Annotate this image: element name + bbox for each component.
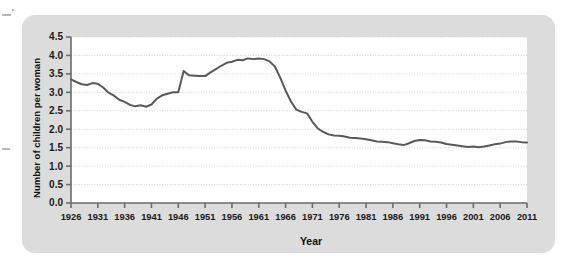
y-axis-title: Number of children per woman (31, 58, 42, 198)
y-tick-label: 1.0 (49, 161, 63, 172)
scan-speck (2, 148, 10, 150)
y-tick-label: 4.5 (49, 31, 63, 42)
y-tick-label: 0.5 (49, 179, 63, 190)
y-axis-tick-labels: 0.00.51.01.52.02.53.03.54.04.5 (49, 31, 63, 208)
x-axis-title: Year (300, 235, 322, 247)
x-tick-label: 2001 (463, 212, 484, 222)
x-tick-label: 1946 (168, 212, 189, 222)
y-tick-label: 2.5 (49, 105, 63, 116)
x-tick-label: 1931 (87, 212, 108, 222)
x-axis-tick-labels: 1926193119361941194619511956196119661971… (61, 212, 537, 222)
x-tick-label: 1936 (114, 212, 135, 222)
scan-speck (2, 14, 11, 16)
y-tick-label: 1.5 (49, 142, 63, 153)
x-tick-label: 1981 (356, 212, 377, 222)
x-tick-label: 2006 (490, 212, 511, 222)
x-tick-label: 1961 (248, 212, 269, 222)
y-tick-label: 3.0 (49, 87, 63, 98)
plot-background (71, 37, 527, 203)
x-tick-label: 2011 (517, 212, 537, 222)
x-tick-label: 1926 (61, 212, 82, 222)
x-tick-label: 1976 (329, 212, 350, 222)
x-tick-label: 1941 (141, 212, 162, 222)
y-tick-label: 3.5 (49, 68, 63, 79)
x-tick-label: 1996 (436, 212, 457, 222)
x-tick-label: 1971 (302, 212, 323, 222)
y-tick-label: 4.0 (49, 50, 63, 61)
y-tick-label: 2.0 (49, 124, 63, 135)
plot-area: 1926193119361941194619511956196119661971… (22, 15, 555, 253)
fertility-rate-line-chart: 1926193119361941194619511956196119661971… (22, 15, 555, 253)
x-tick-label: 1956 (222, 212, 243, 222)
y-tick-label: 0.0 (49, 197, 63, 208)
x-tick-label: 1991 (409, 212, 430, 222)
x-tick-label: 1986 (383, 212, 404, 222)
figure-root: 1926193119361941194619511956196119661971… (0, 0, 563, 259)
chart-panel: 1926193119361941194619511956196119661971… (22, 15, 555, 253)
x-tick-label: 1951 (195, 212, 216, 222)
x-tick-label: 1966 (275, 212, 296, 222)
scan-speck (12, 9, 14, 11)
